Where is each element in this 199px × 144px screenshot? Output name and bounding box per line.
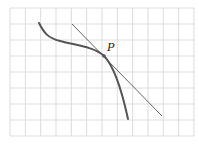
tangent-diagram: P bbox=[0, 0, 199, 144]
curve bbox=[39, 23, 128, 119]
grid bbox=[10, 8, 194, 136]
point-p-label: P bbox=[106, 41, 115, 54]
point-p bbox=[102, 54, 106, 58]
